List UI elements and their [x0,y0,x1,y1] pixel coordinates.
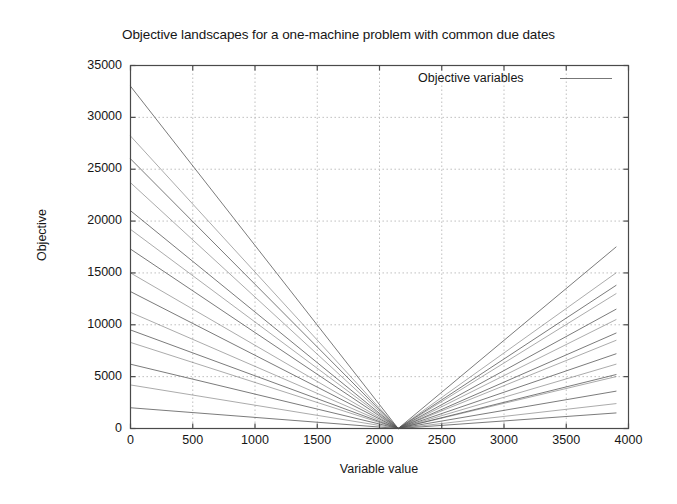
x-tick-label: 3000 [469,433,539,447]
x-tick-label: 2000 [345,433,415,447]
series-line [131,385,617,429]
y-tick-label: 20000 [58,213,122,227]
legend-entry-label: Objective variables [418,71,524,85]
y-axis-tick-labels: 05000100001500020000250003000035000 [54,0,122,504]
series-line [131,211,617,429]
y-tick-label: 30000 [58,109,122,123]
y-tick-label: 35000 [58,58,122,72]
y-axis-label: Objective [35,175,49,295]
x-tick-label: 1500 [282,433,352,447]
chart-figure: Objective landscapes for a one-machine p… [0,0,677,504]
series-line [131,312,617,428]
data-series-group [131,86,617,428]
y-tick-label: 10000 [58,317,122,331]
y-tick-label: 25000 [58,161,122,175]
x-tick-label: 0 [96,433,166,447]
y-tick-label: 5000 [58,369,122,383]
gridlines [131,66,629,429]
x-tick-label: 2500 [407,433,477,447]
x-tick-label: 4000 [594,433,664,447]
x-axis-label: Variable value [130,462,628,476]
series-line [131,86,617,428]
x-tick-label: 3500 [531,433,601,447]
x-tick-label: 500 [158,433,228,447]
series-line [131,159,617,429]
series-line [131,183,617,429]
x-tick-label: 1000 [220,433,290,447]
y-tick-label: 15000 [58,265,122,279]
